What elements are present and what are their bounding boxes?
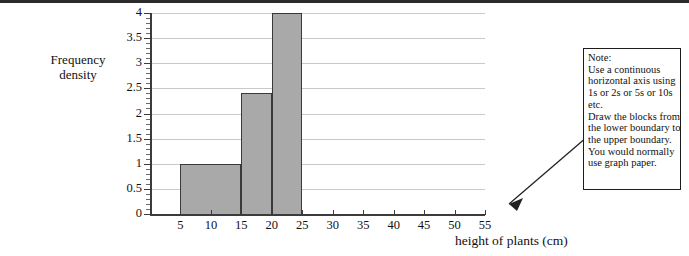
y-axis-tick [144,63,150,64]
y-axis-tick-label: 1.5 [112,131,142,146]
x-axis-title: height of plants (cm) [455,233,568,249]
y-axis-minor-tick [146,144,150,145]
y-axis-tick [144,214,150,215]
x-axis-tick-label: 15 [228,218,254,233]
y-axis-minor-tick [146,73,150,74]
plot-area [150,13,485,214]
y-axis-minor-tick [146,48,150,49]
gridline [150,114,485,115]
histogram-bar [241,93,271,215]
x-axis-tick-label: 40 [381,218,407,233]
note-line: horizontal axis using [588,75,676,87]
y-axis-tick [144,13,150,14]
histogram-bar [180,164,241,215]
y-axis-title-line-1: Frequency [51,52,106,67]
x-axis-tick [485,210,486,215]
y-axis-tick [144,139,150,140]
y-axis-minor-tick [146,83,150,84]
note-line: the upper boundary. [588,134,676,146]
x-axis-tick [211,210,212,215]
y-axis-minor-tick [146,134,150,135]
y-axis-tick [144,38,150,39]
y-axis-minor-tick [146,154,150,155]
x-axis-tick-label: 5 [167,218,193,233]
note-line: 1s or 2s or 5s or 10s [588,87,676,99]
x-axis-tick [455,210,456,215]
y-axis-minor-tick [146,199,150,200]
y-axis-tick [144,88,150,89]
x-axis-tick [394,210,395,215]
note-line: You would normally [588,146,676,158]
y-axis-tick-label: 4 [112,5,142,20]
y-axis-minor-tick [146,124,150,125]
x-axis-tick [363,210,364,215]
x-axis-tick-label: 10 [198,218,224,233]
y-axis-line [150,13,152,215]
y-axis-title-line-2: density [59,67,97,82]
y-axis-tick [144,189,150,190]
y-axis-minor-tick [146,18,150,19]
note-line: Note: [588,52,676,64]
y-axis-tick-label: 2.5 [112,80,142,95]
x-axis-tick [241,210,242,215]
y-axis-minor-tick [146,28,150,29]
gridline [150,13,485,14]
x-axis-tick-label: 20 [259,218,285,233]
y-axis-tick-label: 2 [112,106,142,121]
note-line: the lower boundary to [588,122,676,134]
y-axis-minor-tick [146,103,150,104]
y-axis-minor-tick [146,98,150,99]
x-axis-tick-label: 50 [442,218,468,233]
y-axis-minor-tick [146,129,150,130]
histogram-bar [272,13,302,215]
note-callout: Note:Use a continuoushorizontal axis usi… [583,48,681,190]
y-axis-minor-tick [146,174,150,175]
x-axis-line [150,214,485,216]
x-axis-tick [302,210,303,215]
x-axis-tick-label: 35 [350,218,376,233]
note-arrow-icon [495,134,590,216]
gridline [150,63,485,64]
gridline [150,88,485,89]
note-line: Draw the blocks from [588,111,676,123]
y-axis-minor-tick [146,23,150,24]
note-line: Use a continuous [588,64,676,76]
y-axis-tick [144,114,150,115]
y-axis-tick-label: 3 [112,55,142,70]
y-axis-tick-label: 3.5 [112,30,142,45]
y-axis-minor-tick [146,93,150,94]
y-axis-minor-tick [146,209,150,210]
y-axis-minor-tick [146,194,150,195]
x-axis-tick-label: 45 [411,218,437,233]
y-axis-minor-tick [146,68,150,69]
x-axis-tick-label: 30 [320,218,346,233]
x-axis-tick [180,210,181,215]
y-axis-minor-tick [146,184,150,185]
y-axis-minor-tick [146,58,150,59]
y-axis-minor-tick [146,179,150,180]
y-axis-minor-tick [146,149,150,150]
chart-page: Frequency density 00.511.522.533.54 5101… [0,0,689,256]
y-axis-minor-tick [146,204,150,205]
note-line: etc. [588,99,676,111]
y-axis-minor-tick [146,108,150,109]
x-axis-tick [333,210,334,215]
y-axis-minor-tick [146,169,150,170]
y-axis-minor-tick [146,33,150,34]
y-axis-minor-tick [146,159,150,160]
gridline [150,139,485,140]
x-axis-tick-label: 25 [289,218,315,233]
y-axis-tick-label: 1 [112,156,142,171]
note-line: use graph paper. [588,157,676,169]
x-axis-tick [272,210,273,215]
y-axis-tick-label: 0 [112,206,142,221]
y-axis-minor-tick [146,78,150,79]
y-axis-tick-label: 0.5 [112,181,142,196]
gridline [150,38,485,39]
y-axis-minor-tick [146,53,150,54]
x-axis-tick [424,210,425,215]
y-axis-minor-tick [146,43,150,44]
x-axis-tick-label: 55 [472,218,498,233]
y-axis-minor-tick [146,119,150,120]
y-axis-tick [144,164,150,165]
